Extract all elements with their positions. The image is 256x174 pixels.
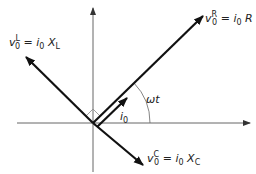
- label-omega-t: ωt: [146, 93, 160, 106]
- label-vL: vL0 = i0 XL: [9, 34, 61, 51]
- phasor-vC: [93, 123, 143, 165]
- label-vR: vR0 = i0 R: [205, 10, 253, 27]
- phasor-vL: [26, 57, 93, 123]
- label-vC: vC0 = i0 XC: [147, 150, 201, 167]
- label-i0: i0: [120, 110, 128, 125]
- phasor-diagram: vR0 = i0 R vL0 = i0 XL vC0 = i0 XC i0 ωt: [0, 0, 256, 174]
